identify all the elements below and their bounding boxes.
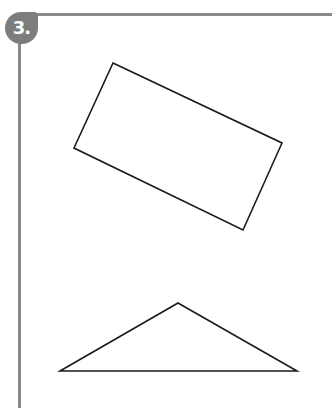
rotated-rectangle-figure bbox=[74, 63, 282, 230]
figures-canvas bbox=[0, 0, 332, 408]
exercise-page: 3. bbox=[0, 0, 332, 408]
obtuse-triangle-figure bbox=[60, 303, 297, 371]
